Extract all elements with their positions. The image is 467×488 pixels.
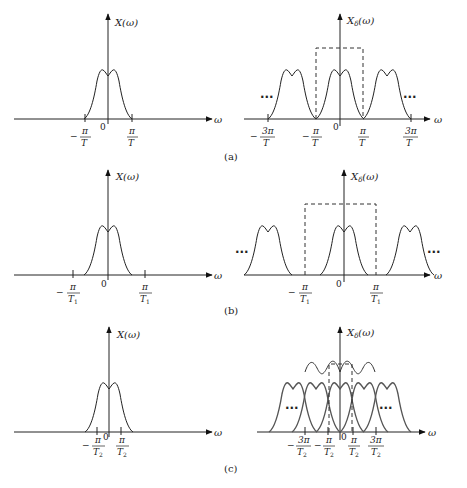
panel-a-left-plot: X(ω) ω 0 − π T π T [14,14,222,148]
svg-text:π: π [325,435,333,445]
panel-c-right-plot: ··· ··· Xδ(ω) ω 0 − 3π T2 − π T2 π T2 [257,327,436,458]
panel-b-right-plot: ··· ··· Xδ(ω) ω 0 − π T1 π T1 [235,170,442,305]
tick-label-pi-over-T1: π T1 [370,282,383,305]
ideal-lowpass-filter [305,204,376,275]
svg-text:T2: T2 [324,447,334,458]
caption-a: (a) [224,151,238,162]
svg-text:−: − [302,131,310,141]
x-axis-label: ω [434,270,442,281]
svg-text:T2: T2 [117,447,127,458]
svg-text:−: − [288,287,296,297]
svg-text:T: T [406,138,413,148]
svg-text:π: π [81,126,89,136]
tick-label-neg-pi-over-T1: − π T1 [56,282,80,305]
y-axis-label: X(ω) [115,171,139,182]
ellipsis-left: ··· [260,90,274,104]
x-axis-label: ω [214,270,222,281]
svg-text:π: π [94,435,102,445]
ellipsis-left: ··· [285,401,299,415]
ellipsis-right: ··· [427,245,441,259]
svg-text:T: T [128,138,135,148]
svg-text:−: − [56,287,64,297]
ellipsis-left: ··· [235,245,249,259]
svg-text:π: π [69,282,77,292]
tick-label-pi-over-T: π T [358,126,369,148]
svg-text:3π: 3π [370,435,383,445]
panel-b: X(ω) ω 0 − π T1 π T1 ··· ··· Xδ [14,170,442,316]
svg-text:T2: T2 [297,447,307,458]
sampling-spectra-figure: X(ω) ω 0 − π T π T ··· [0,0,467,488]
svg-text:π: π [312,126,320,136]
spectrum-replica [292,383,340,432]
svg-text:T1: T1 [300,294,310,305]
tick-label-pi-over-T1: π T1 [139,282,152,305]
tick-label-neg-pi-over-T: − π T [70,126,91,148]
svg-text:T: T [263,138,270,148]
ellipsis-right: ··· [403,90,417,104]
panel-a-right-plot: ··· ··· Xδ(ω) ω 0 − 3π T − π T π T [244,14,442,148]
y-axis-label: Xδ(ω) [350,171,378,184]
svg-text:T1: T1 [371,294,381,305]
panel-c-left-plot: X(ω) ω 0 − π T2 π T2 [14,327,222,458]
svg-text:π: π [350,435,358,445]
tick-label-pi-over-T2: π T2 [116,435,129,458]
svg-text:T: T [359,138,366,148]
y-axis-label: X(ω) [114,17,138,28]
svg-text:−: − [250,131,258,141]
svg-text:π: π [128,126,136,136]
spectrum-replica [268,70,316,119]
caption-b: (b) [224,305,238,316]
y-axis-label: Xδ(ω) [346,327,374,340]
tick-label-neg-pi-over-T2: − π T2 [82,435,105,458]
svg-text:T: T [312,138,319,148]
caption-c: (c) [224,463,238,474]
tick-label-neg-pi-over-T: − π T [302,126,322,148]
y-axis-label: X(ω) [116,329,140,340]
origin-label: 0 [336,279,342,289]
origin-label: 0 [333,122,339,132]
tick-label-neg-pi-over-T2: − π T2 [314,435,335,458]
y-axis-label: Xδ(ω) [346,15,374,28]
panel-a: X(ω) ω 0 − π T π T ··· [14,14,442,162]
svg-text:−: − [287,440,295,450]
x-axis-label: ω [214,114,222,125]
svg-text:T2: T2 [349,447,359,458]
origin-label: 0 [103,432,109,442]
svg-text:−: − [314,440,322,450]
svg-text:T: T [81,138,88,148]
svg-text:−: − [82,440,90,450]
svg-text:T1: T1 [68,294,78,305]
origin-label: 0 [101,279,107,289]
svg-text:π: π [372,282,380,292]
svg-text:π: π [359,126,367,136]
tick-label-neg-pi-over-T1: − π T1 [288,282,312,305]
origin-label: 0 [100,122,106,132]
svg-text:T2: T2 [371,447,381,458]
tick-label-neg-3pi-over-T: − 3π T [250,126,275,148]
x-axis-label: ω [428,427,436,438]
svg-text:π: π [141,282,149,292]
x-axis-label: ω [214,427,222,438]
svg-text:3π: 3π [298,435,311,445]
svg-text:π: π [118,435,126,445]
panel-c: X(ω) ω 0 − π T2 π T2 [14,327,436,474]
tick-label-pi-over-T2: π T2 [348,435,360,458]
panel-b-left-plot: X(ω) ω 0 − π T1 π T1 [14,170,222,305]
x-axis-label: ω [434,114,442,125]
svg-text:T2: T2 [93,447,103,458]
tick-label-neg-3pi-over-T2: − 3π T2 [287,435,311,458]
svg-text:−: − [70,131,78,141]
tick-label-3pi-over-T: 3π T [403,126,418,148]
spectrum-replica [244,226,292,275]
tick-label-3pi-over-T2: 3π T2 [368,435,384,458]
svg-text:π: π [301,282,309,292]
svg-text:3π: 3π [405,126,418,136]
ellipsis-right: ··· [379,401,393,415]
svg-text:3π: 3π [262,126,275,136]
origin-label: 0 [341,432,347,442]
svg-text:T1: T1 [140,294,150,305]
tick-label-pi-over-T: π T [127,126,138,148]
